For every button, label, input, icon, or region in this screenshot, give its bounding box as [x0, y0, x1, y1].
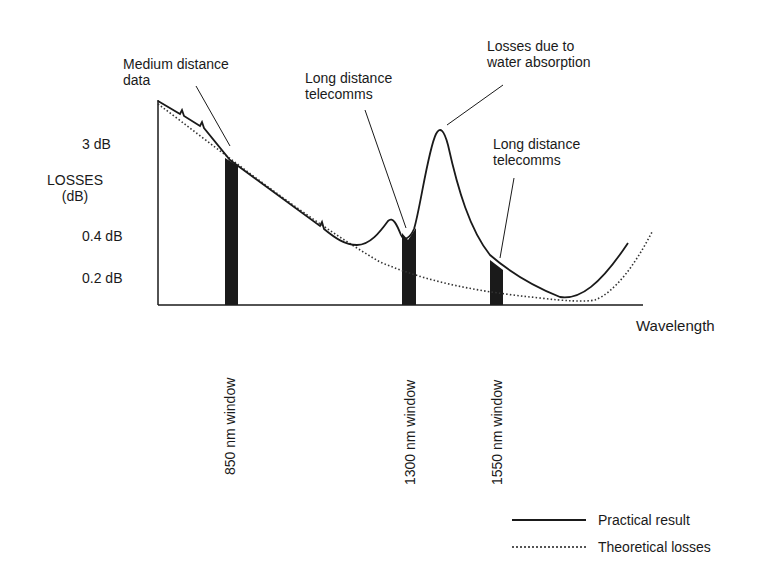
legend-item-theoretical: Theoretical losses	[512, 539, 711, 555]
annotation-long-distance-1550: Long distance telecomms	[493, 136, 580, 168]
annotation-long-distance-1550-line1: Long distance	[493, 136, 580, 152]
annotation-medium-distance-line1: Medium distance	[123, 56, 229, 72]
annotation-long-distance-1300-line2: telecomms	[305, 86, 392, 102]
tick-label-3db: 3 dB	[82, 136, 111, 152]
tick-label-0-2db: 0.2 dB	[82, 270, 122, 286]
legend-solid-line-swatch	[512, 519, 586, 521]
y-axis-title: LOSSES (dB)	[38, 172, 112, 204]
annotation-water-absorption-line1: Losses due to	[487, 38, 591, 54]
tick-label-0-4db: 0.4 dB	[82, 228, 122, 244]
legend-item-practical: Practical result	[512, 512, 690, 528]
annotation-long-distance-1300-line1: Long distance	[305, 70, 392, 86]
annotation-medium-distance: Medium distance data	[123, 56, 229, 88]
window-bar-850	[225, 158, 238, 305]
x-axis-title: Wavelength	[636, 318, 715, 334]
annotation-water-absorption: Losses due to water absorption	[487, 38, 591, 70]
leader-medium-distance	[196, 86, 230, 146]
annotation-water-absorption-line2: water absorption	[487, 54, 591, 70]
y-axis-title-line1: LOSSES	[38, 172, 112, 188]
legend-label-theoretical: Theoretical losses	[598, 539, 711, 555]
leader-long-distance-1300	[365, 110, 406, 228]
leader-water-absorption	[447, 85, 503, 125]
window-bar-1550	[490, 260, 503, 305]
annotation-long-distance-1550-line2: telecomms	[493, 152, 580, 168]
annotation-medium-distance-line2: data	[123, 72, 229, 88]
window-label-1550: 1550 nm window	[489, 380, 505, 485]
annotation-long-distance-1300: Long distance telecomms	[305, 70, 392, 102]
window-label-850: 850 nm window	[222, 378, 238, 475]
y-axis-title-line2: (dB)	[38, 188, 112, 204]
legend-label-practical: Practical result	[598, 512, 690, 528]
legend-dotted-line-swatch	[512, 546, 586, 548]
window-bar-1300	[402, 228, 416, 305]
leader-long-distance-1550	[500, 178, 514, 258]
window-label-1300: 1300 nm window	[402, 380, 418, 485]
